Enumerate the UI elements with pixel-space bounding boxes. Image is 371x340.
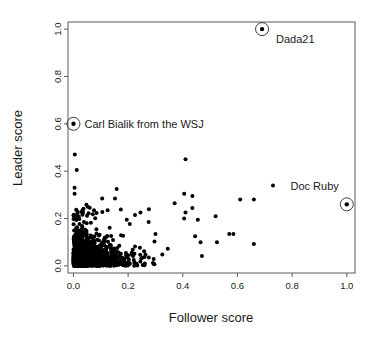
y-axis-title: Leader score [10,110,25,186]
scatter-point [75,168,79,172]
scatter-point [160,253,164,257]
y-tick-label: 0.6 [52,117,63,130]
scatter-point [173,201,177,205]
scatter-point [214,214,218,218]
point-annotation-label: Carl Bialik from the WSJ [84,118,203,130]
plot-canvas: 0.00.20.40.60.81.0 0.00.20.40.60.81.0 Da… [0,0,371,340]
x-tick-label: 0.6 [231,280,244,291]
scatter-point [81,211,85,215]
scatter-point [106,208,110,212]
x-tick-label: 0.0 [67,280,80,291]
x-tick-label: 0.4 [176,280,189,291]
scatter-point [100,196,104,200]
scatter-point [182,217,186,221]
scatter-point [271,183,275,187]
point-annotation-label: Dada21 [276,33,315,45]
scatter-point [196,218,200,222]
highlight-center-dot [260,27,264,31]
y-tick-label: 1.0 [52,22,63,35]
scatter-point [73,192,77,196]
scatter-point [252,198,256,202]
scatter-point [153,232,157,236]
scatter-point [115,187,119,191]
scatter-point [238,198,242,202]
point-annotation-label: Doc Ruby [291,180,340,192]
scatter-point [199,240,203,244]
scatter-point [200,254,204,258]
scatter-point [86,205,90,209]
scatter-point [231,232,235,236]
scatter-point [73,186,77,190]
scatter-point [147,220,151,224]
scatter-point [215,240,219,244]
scatter-point [138,211,142,215]
x-tick-label: 0.8 [286,280,299,291]
scatter-point [113,196,117,200]
y-tick-label: 0.8 [52,70,63,83]
scatter-point [166,247,170,251]
x-tick-label: 1.0 [340,280,353,291]
scatter-point [92,208,96,212]
y-tick-label: 0.4 [52,165,63,178]
scatter-point [73,153,77,157]
x-axis-title: Follower score [169,310,254,325]
highlight-center-dot [345,202,349,206]
x-tick-label: 0.2 [122,280,135,291]
scatter-point [193,234,197,238]
scatter-point [190,206,194,210]
y-tick-label: 0.2 [52,212,63,225]
scatter-point [227,232,231,236]
scatter-plot-figure: 0.00.20.40.60.81.0 0.00.20.40.60.81.0 Da… [0,0,371,340]
scatter-point [133,213,137,217]
scatter-point [184,211,188,215]
scatter-point [184,157,188,161]
y-tick-label: 0.0 [52,259,63,272]
scatter-point [252,242,256,246]
highlight-center-dot [71,122,75,126]
scatter-point [182,192,186,196]
annotated-point: Carl Bialik from the WSJ [67,117,204,130]
scatter-point [125,218,129,222]
scatter-point [190,194,194,198]
